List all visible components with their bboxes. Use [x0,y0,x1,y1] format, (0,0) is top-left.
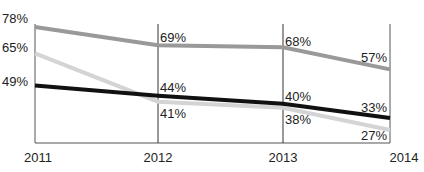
series-black-line [35,86,390,118]
label-a-2012: 69% [160,30,186,45]
x-tick-labels: 2011 2012 2013 2014 [24,150,418,165]
tick-2014: 2014 [390,150,419,165]
label-b-2013: 38% [285,112,311,127]
label-a-2013: 68% [285,34,311,49]
label-c-2012: 44% [160,80,186,95]
label-b-2012: 41% [160,106,186,121]
line-chart: 78% 69% 68% 57% 65% 41% 38% 27% 49% 44% … [0,0,424,172]
label-c-2013: 40% [285,89,311,104]
label-c-2014: 33% [361,100,387,115]
label-b-2011: 65% [2,40,28,55]
label-a-2014: 57% [361,50,387,65]
tick-2013: 2013 [269,150,298,165]
label-b-2014: 27% [361,128,387,143]
tick-2012: 2012 [144,150,173,165]
label-a-2011: 78% [2,11,28,26]
tick-2011: 2011 [24,150,52,165]
label-c-2011: 49% [2,74,28,89]
series-medium-gray-line [35,27,390,69]
